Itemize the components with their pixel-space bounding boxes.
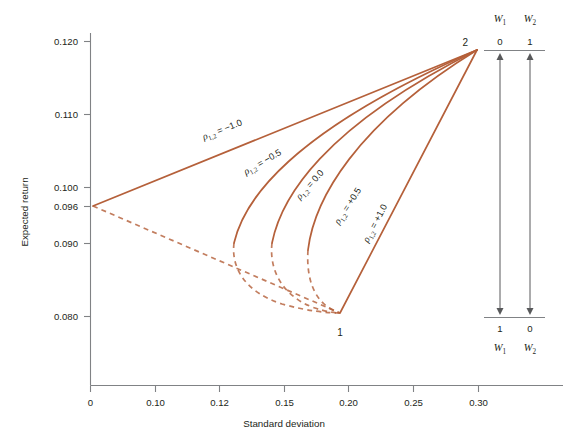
x-tick-label: 0 xyxy=(88,397,93,408)
efficient-frontier-figure: 0.120 0.110 0.100 0.096 0.090 0.080 0 0.… xyxy=(0,0,565,446)
curve-rho-neg05-dashed xyxy=(234,243,340,313)
x-tick-label: 0.10 xyxy=(146,397,165,408)
curve-rho-neg1-solid xyxy=(93,50,477,206)
curve-rho-neg05-solid xyxy=(234,50,477,243)
curve-rho-neg05 xyxy=(234,50,477,313)
svg-text:ρ1,2 = +0.5: ρ1,2 = +0.5 xyxy=(331,185,365,228)
y-axis-title: Expected return xyxy=(19,177,30,246)
weight-scale-bottom-w2-value: 0 xyxy=(527,323,532,334)
svg-text:ρ1,2 = −0.5: ρ1,2 = −0.5 xyxy=(241,146,284,178)
weight-scale-top-w1-subscript: 1 xyxy=(503,19,507,27)
x-tick-label: 0.25 xyxy=(404,397,423,408)
curve-rho-pos05-dashed xyxy=(308,250,340,313)
x-tick-label: 0.15 xyxy=(275,397,294,408)
x-axis-ticks: 0 0.10 0.12 0.15 0.20 0.25 0.30 xyxy=(88,386,488,409)
y-tick-label: 0.096 xyxy=(54,201,78,212)
weight-scale-bottom-w2-name: W2 xyxy=(524,342,537,356)
svg-text:ρ1,2 = −1.0: ρ1,2 = −1.0 xyxy=(200,116,244,143)
weight-scale-bottom-w2-subscript: 2 xyxy=(533,348,537,356)
weight-scale-bottom-w1-name: W1 xyxy=(494,342,507,356)
weight-scale-w1-arrowhead-down xyxy=(497,308,504,315)
x-tick-label: 0.30 xyxy=(469,397,488,408)
curve-rho-neg1-dashed xyxy=(93,206,340,313)
weight-scale-top-w2-subscript: 2 xyxy=(533,19,537,27)
chart-svg: 0.120 0.110 0.100 0.096 0.090 0.080 0 0.… xyxy=(0,0,565,446)
endpoint-label-1: 1 xyxy=(337,327,343,338)
x-tick-label: 0.20 xyxy=(339,397,358,408)
weight-scale-top-w1-value: 0 xyxy=(497,36,502,47)
y-tick-label: 0.080 xyxy=(54,311,78,322)
weight-scale-w2-arrowhead-down xyxy=(527,308,534,315)
weight-scale-top-w1-name: W1 xyxy=(494,13,507,27)
axes xyxy=(91,33,564,386)
weight-scale-bottom-w1-subscript: 1 xyxy=(503,348,507,356)
rho-value: = +1.0 xyxy=(367,203,389,233)
x-tick-label: 0.12 xyxy=(210,397,229,408)
weight-scale: W1 W2 0 1 1 0 W1 W2 xyxy=(484,13,545,356)
weight-scale-bottom-w1-value: 1 xyxy=(497,323,502,334)
curve-label-rho-pos05: ρ1,2 = +0.5 xyxy=(331,185,365,228)
curve-label-rho-neg1: ρ1,2 = −1.0 xyxy=(200,116,244,143)
curve-rho-0 xyxy=(272,50,477,313)
rho-value: = −0.5 xyxy=(253,147,283,170)
weight-scale-top-w2-value: 1 xyxy=(527,36,532,47)
y-tick-label: 0.100 xyxy=(54,182,78,193)
endpoint-label-2: 2 xyxy=(462,37,468,48)
weight-scale-w2-arrowhead-up xyxy=(527,53,534,60)
weight-scale-top-w2-name: W2 xyxy=(524,13,537,27)
curve-rho-pos05 xyxy=(308,50,477,313)
curve-rho-0-dashed xyxy=(272,243,340,313)
rho-value: = +0.5 xyxy=(339,186,363,215)
curve-rho-pos1 xyxy=(340,50,477,313)
rho-value: = −1.0 xyxy=(213,117,243,137)
rho-value: = 0.0 xyxy=(303,168,326,192)
curve-label-rho-neg05: ρ1,2 = −0.5 xyxy=(241,146,284,178)
curve-rho-pos1-solid xyxy=(340,50,477,313)
y-axis-ticks: 0.120 0.110 0.100 0.096 0.090 0.080 xyxy=(54,36,91,322)
y-tick-label: 0.090 xyxy=(54,238,78,249)
y-tick-label: 0.120 xyxy=(54,36,78,47)
y-tick-label: 0.110 xyxy=(55,109,78,120)
weight-scale-w1-arrowhead-up xyxy=(497,53,504,60)
x-axis-title: Standard deviation xyxy=(243,418,325,429)
